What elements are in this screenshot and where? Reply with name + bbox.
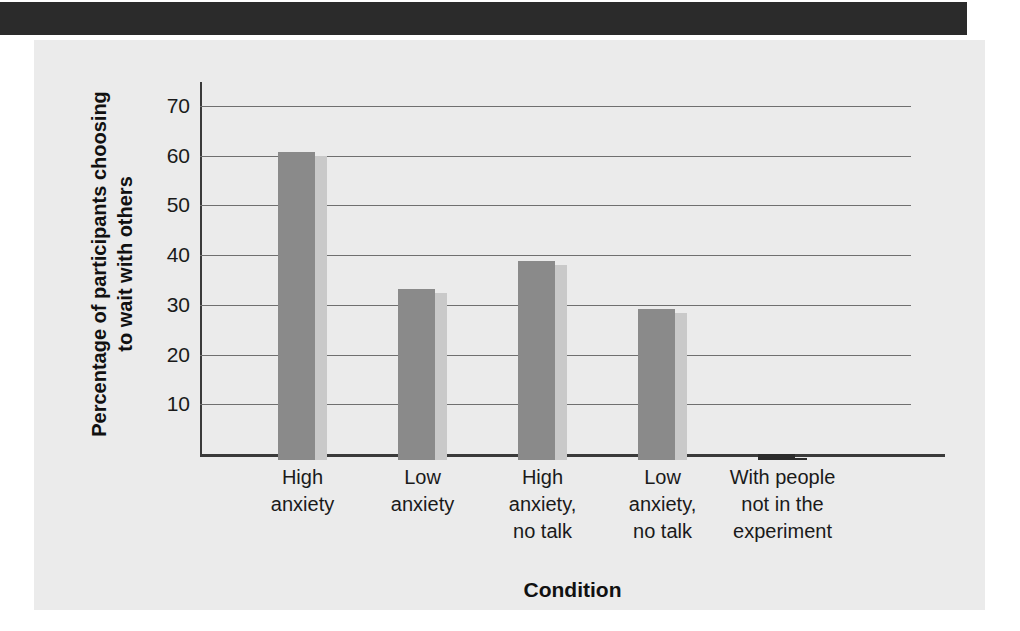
figure-panel: Percentage of participants choosing to w… — [34, 40, 985, 610]
page-header-band — [0, 2, 967, 35]
bar-shadow — [555, 265, 567, 460]
bar-body — [278, 152, 315, 460]
bar — [278, 152, 327, 460]
bar-shadow — [435, 293, 447, 460]
bar-body — [638, 309, 675, 460]
y-tick-label: 50 — [167, 193, 190, 217]
y-tick-label: 60 — [167, 144, 190, 168]
y-tick-label: 20 — [167, 343, 190, 367]
category-label: Low anxiety, no talk — [593, 464, 733, 545]
category-label: High anxiety — [233, 464, 373, 518]
bar-body — [518, 261, 555, 460]
bar-shadow — [315, 156, 327, 460]
y-tick-label: 40 — [167, 243, 190, 267]
y-tick-label: 30 — [167, 293, 190, 317]
bar — [758, 454, 807, 460]
y-tick-label: 70 — [167, 94, 190, 118]
y-tick-label: 10 — [167, 392, 190, 416]
y-axis-title: Percentage of participants choosing to w… — [86, 84, 138, 444]
bar — [638, 309, 687, 460]
x-axis-title: Condition — [200, 578, 945, 602]
y-axis-line — [200, 82, 202, 456]
plot-area: 10203040506070 High anxietyLow anxietyHi… — [200, 60, 945, 460]
bar-shadow — [795, 458, 807, 460]
bar-body — [398, 289, 435, 460]
category-label: Low anxiety — [353, 464, 493, 518]
gridline — [200, 106, 911, 107]
bar — [398, 289, 447, 460]
bar-body — [758, 454, 795, 460]
category-label: High anxiety, no talk — [473, 464, 613, 545]
bar-shadow — [675, 313, 687, 460]
category-label: With people not in the experiment — [713, 464, 853, 545]
bar — [518, 261, 567, 460]
